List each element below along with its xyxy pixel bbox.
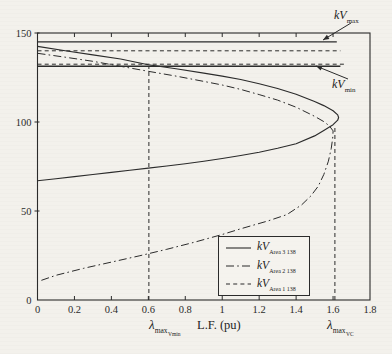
y-tick-label: 150 [16,28,32,39]
kv-min-arrow-head [316,66,323,71]
lambda-sub: max [155,326,168,335]
kv-min-annotation-sub: min [345,86,356,94]
x-tick-label: 1.8 [363,304,376,315]
legend-sample-dashdot-line [225,261,252,271]
x-tick-label: 1.4 [290,304,304,315]
legend-label-sub: Area 1 138 [269,286,296,292]
scanned-figure-page: 00.20.40.60.811.21.41.61.8050100150 kVma… [0,0,392,354]
lambda-sub: max [333,326,346,335]
legend-label-main: kV [257,259,269,271]
x-tick-label: 0 [35,304,40,315]
lambda-subsub: VC [346,331,354,337]
legend-item-1: kVArea 2 138 [225,258,309,275]
kv-min-annotation-main: kV [332,77,345,91]
legend-sample-solid-line [225,243,252,253]
legend-item-label: kVArea 3 138 [257,240,296,255]
legend: kVArea 3 138kVArea 2 138kVArea 1 138 [218,236,310,296]
lambda-max-vc-label: λmaxVC [327,317,354,337]
x-tick-label: 0.8 [179,304,192,315]
pv-curve-chart: 00.20.40.60.811.21.41.61.8050100150 [0,0,392,354]
legend-sample-dashed-line [225,279,252,289]
kv-max-annotation-sub: max [347,17,359,25]
legend-item-0: kVArea 3 138 [225,239,309,256]
x-tick-label: 1 [220,304,225,315]
kv-max-arrow-head [323,35,329,40]
legend-item-label: kVArea 2 138 [257,259,296,274]
y-tick-label: 100 [16,117,32,128]
x-tick-label: 1.2 [253,304,266,315]
x-tick-label: 1.6 [326,304,339,315]
legend-label-main: kV [257,240,269,252]
legend-label-sub: Area 2 138 [269,268,296,274]
y-tick-label: 0 [26,295,31,306]
kv-max-annotation: kVmax [334,9,359,27]
lambda-subsub: Vmin [168,331,181,337]
lambda-max-vmin-label: λmaxVmin [149,317,181,337]
x-tick-label: 0.4 [105,304,119,315]
legend-item-2: kVArea 1 138 [225,276,309,293]
x-axis-title-text: L.F. (pu) [197,318,241,332]
x-tick-label: 0.6 [142,304,155,315]
x-tick-label: 0.2 [68,304,81,315]
x-axis-title: L.F. (pu) [197,318,241,333]
kv-min-annotation: kVmin [332,78,356,96]
legend-label-main: kV [257,277,269,289]
legend-label-sub: Area 3 138 [269,249,296,255]
legend-item-label: kVArea 1 138 [257,277,296,292]
y-tick-label: 50 [21,206,32,217]
kv-max-annotation-main: kV [334,8,347,22]
